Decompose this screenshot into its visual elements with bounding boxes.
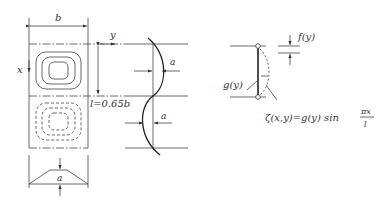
length-label: l=0.65b bbox=[90, 98, 130, 109]
stiffener-section: f(y) g(y) ζ(x,y)=g(y) sin πx l bbox=[223, 31, 374, 129]
width-label: b bbox=[55, 12, 61, 23]
amplitude-label-top: a bbox=[170, 57, 175, 67]
x-axis-label: x bbox=[17, 64, 23, 75]
formula-denominator: l bbox=[364, 120, 367, 129]
g-label: g(y) bbox=[223, 79, 243, 90]
y-axis-label: y bbox=[109, 29, 116, 40]
buckling-mode-diagram: b y x l=0.65b a bbox=[0, 0, 389, 209]
deflection-profile: a a bbox=[125, 38, 188, 155]
f-label: f(y) bbox=[297, 31, 315, 42]
formula-numerator: πx bbox=[360, 107, 371, 116]
plate-plan-view: b y x l=0.65b a bbox=[17, 12, 130, 196]
deflection-formula: ζ(x,y)=g(y) sin bbox=[265, 112, 339, 123]
cross-section-amplitude-label: a bbox=[57, 173, 62, 183]
amplitude-label-bottom: a bbox=[161, 111, 166, 121]
